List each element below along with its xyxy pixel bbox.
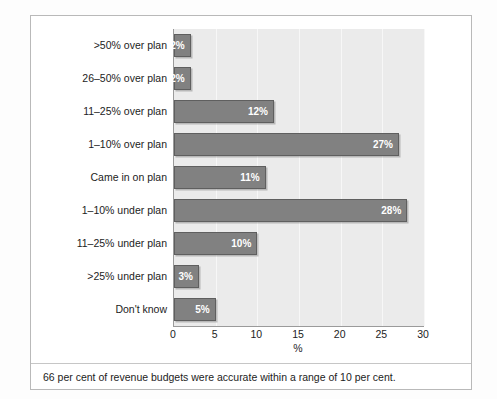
bar-value-label: 2% bbox=[170, 35, 184, 56]
bar-row: 2% bbox=[174, 29, 424, 62]
x-tick-label-25: 25 bbox=[375, 328, 387, 340]
x-tick-label-20: 20 bbox=[334, 328, 346, 340]
category-axis-labels: >50% over plan 26–50% over plan 11–25% o… bbox=[31, 29, 172, 326]
bar-row: 27% bbox=[174, 128, 424, 161]
bar-row: 12% bbox=[174, 95, 424, 128]
bar-row: 11% bbox=[174, 161, 424, 194]
figure-frame: >50% over plan 26–50% over plan 11–25% o… bbox=[30, 15, 472, 390]
bar[interactable]: 5% bbox=[174, 298, 216, 321]
footnote-divider bbox=[31, 363, 471, 364]
bar-value-label: 12% bbox=[248, 101, 268, 122]
footnote-text: 66 per cent of revenue budgets were accu… bbox=[43, 371, 463, 383]
bar[interactable]: 12% bbox=[174, 100, 274, 123]
category-label-2: 11–25% over plan bbox=[31, 95, 172, 128]
category-label-1: 26–50% over plan bbox=[31, 62, 172, 95]
x-tick-label-30: 30 bbox=[417, 328, 429, 340]
category-label-8: Don't know bbox=[31, 293, 172, 326]
plot-area: 2%2%12%27%11%28%10%3%5% bbox=[173, 29, 424, 327]
bar-row: 5% bbox=[174, 293, 424, 326]
bar[interactable]: 27% bbox=[174, 133, 399, 156]
bar-row: 28% bbox=[174, 194, 424, 227]
bar[interactable]: 11% bbox=[174, 166, 266, 189]
bar-value-label: 27% bbox=[373, 134, 393, 155]
bar-value-label: 3% bbox=[179, 266, 193, 287]
bar[interactable]: 28% bbox=[174, 199, 407, 222]
category-label-6: 11–25% under plan bbox=[31, 227, 172, 260]
bar-value-label: 2% bbox=[170, 68, 184, 89]
bar[interactable]: 10% bbox=[174, 232, 257, 255]
x-tick-label-0: 0 bbox=[170, 328, 176, 340]
bar-row: 10% bbox=[174, 227, 424, 260]
category-label-0: >50% over plan bbox=[31, 29, 172, 62]
bar[interactable]: 2% bbox=[174, 67, 191, 90]
x-tick-label-15: 15 bbox=[292, 328, 304, 340]
category-label-4: Came in on plan bbox=[31, 161, 172, 194]
category-label-3: 1–10% over plan bbox=[31, 128, 172, 161]
bar[interactable]: 2% bbox=[174, 34, 191, 57]
category-label-7: >25% under plan bbox=[31, 260, 172, 293]
gridline-30 bbox=[424, 29, 425, 326]
bar-row: 3% bbox=[174, 260, 424, 293]
bar[interactable]: 3% bbox=[174, 265, 199, 288]
bar-value-label: 5% bbox=[195, 299, 209, 320]
category-label-5: 1–10% under plan bbox=[31, 194, 172, 227]
bar-chart: >50% over plan 26–50% over plan 11–25% o… bbox=[31, 16, 471, 356]
bar-value-label: 11% bbox=[240, 167, 259, 188]
x-axis-title: % bbox=[173, 342, 423, 354]
bar-value-label: 10% bbox=[231, 233, 251, 254]
x-tick-label-5: 5 bbox=[212, 328, 218, 340]
x-tick-label-10: 10 bbox=[250, 328, 262, 340]
bar-value-label: 28% bbox=[381, 200, 401, 221]
bar-row: 2% bbox=[174, 62, 424, 95]
